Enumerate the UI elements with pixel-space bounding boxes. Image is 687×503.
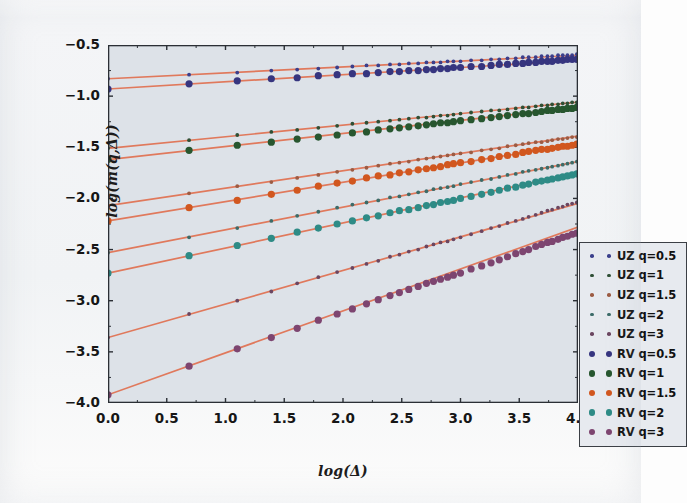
x-tick-label: 3.0 <box>437 410 485 426</box>
legend-dot-icon <box>606 409 612 415</box>
legend-item-label: RV q=1 <box>617 366 664 380</box>
plot-area: log(m(q,Δ)) log(Δ) −0.5−1.0−1.5−2.0−2.5−… <box>108 45 578 403</box>
x-tick-label: 1.0 <box>202 410 250 426</box>
legend-dot-icon <box>589 409 595 415</box>
legend-item-label: RV q=2 <box>617 406 664 420</box>
y-tick-label: −2.5 <box>52 241 100 257</box>
x-axis-label: log(Δ) <box>108 463 578 479</box>
legend-item-label: RV q=3 <box>617 425 664 439</box>
y-tick-label: −0.5 <box>52 36 100 52</box>
legend-dot-icon <box>589 351 595 357</box>
legend-item[interactable]: UZ q=2 <box>584 305 681 325</box>
legend-item[interactable]: RV q=1.5 <box>584 383 681 403</box>
chart-svg <box>108 45 578 403</box>
legend-item-label: UZ q=1 <box>617 268 664 282</box>
legend-dot-icon <box>606 429 612 435</box>
legend-dot-icon <box>590 313 594 317</box>
legend-item[interactable]: UZ q=1.5 <box>584 285 681 305</box>
legend-item-label: RV q=0.5 <box>617 347 676 361</box>
y-axis-label: log(m(q,Δ)) <box>104 101 120 241</box>
legend-dot-icon <box>590 332 594 336</box>
legend-dot-icon <box>606 390 612 396</box>
legend-dot-icon <box>590 274 594 278</box>
legend-marker-swatch <box>584 390 617 396</box>
legend-item[interactable]: RV q=1 <box>584 364 681 384</box>
legend-item[interactable]: UZ q=0.5 <box>584 246 681 266</box>
legend-item-label: UZ q=1.5 <box>617 288 676 302</box>
legend-dot-icon <box>606 370 612 376</box>
legend-dot-icon <box>590 254 594 258</box>
legend-dot-icon <box>607 313 611 317</box>
legend-item[interactable]: RV q=3 <box>584 422 681 442</box>
legend-item[interactable]: UZ q=3 <box>584 324 681 344</box>
legend-dot-icon <box>607 293 611 297</box>
legend-dot-icon <box>590 293 594 297</box>
legend-marker-swatch <box>584 351 617 357</box>
x-tick-label: 0.0 <box>84 410 132 426</box>
legend-marker-swatch <box>584 332 617 336</box>
chart-legend[interactable]: UZ q=0.5UZ q=1UZ q=1.5UZ q=2UZ q=3RV q=0… <box>579 242 687 447</box>
legend-dot-icon <box>607 274 611 278</box>
legend-item[interactable]: RV q=0.5 <box>584 344 681 364</box>
legend-item[interactable]: RV q=2 <box>584 403 681 423</box>
legend-marker-swatch <box>584 409 617 415</box>
x-tick-label: 2.0 <box>319 410 367 426</box>
legend-item[interactable]: UZ q=1 <box>584 266 681 286</box>
legend-dot-icon <box>607 254 611 258</box>
legend-item-label: UZ q=0.5 <box>617 249 676 263</box>
y-tick-label: −3.5 <box>52 343 100 359</box>
y-tick-label: −2.0 <box>52 189 100 205</box>
y-tick-label: −4.0 <box>52 394 100 410</box>
legend-dot-icon <box>607 332 611 336</box>
legend-dot-icon <box>606 351 612 357</box>
x-tick-label: 3.5 <box>495 410 543 426</box>
legend-marker-swatch <box>584 274 617 278</box>
legend-dot-icon <box>589 390 595 396</box>
y-tick-label: −1.0 <box>52 87 100 103</box>
x-tick-label: 1.5 <box>260 410 308 426</box>
y-tick-label: −1.5 <box>52 138 100 154</box>
legend-item-label: UZ q=2 <box>617 308 664 322</box>
y-tick-label: −3.0 <box>52 292 100 308</box>
legend-item-label: RV q=1.5 <box>617 386 676 400</box>
legend-marker-swatch <box>584 370 617 376</box>
legend-marker-swatch <box>584 313 617 317</box>
legend-marker-swatch <box>584 293 617 297</box>
x-tick-label: 0.5 <box>143 410 191 426</box>
legend-marker-swatch <box>584 254 617 258</box>
legend-dot-icon <box>589 370 595 376</box>
legend-dot-icon <box>589 429 595 435</box>
legend-item-label: UZ q=3 <box>617 327 664 341</box>
legend-marker-swatch <box>584 429 617 435</box>
x-tick-label: 2.5 <box>378 410 426 426</box>
